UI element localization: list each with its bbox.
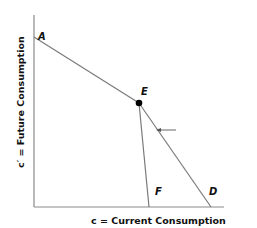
x-axis-title: c = Current Consumption [91, 215, 226, 226]
point-label-F: F [155, 186, 162, 197]
point-label-D: D [209, 186, 217, 197]
budget-line-ED [139, 103, 211, 207]
budget-line-AE [34, 37, 139, 103]
point-E-marker [136, 100, 143, 107]
point-label-E: E [141, 86, 148, 97]
line-EF [139, 103, 149, 207]
y-axis-title: c′ = Future Consumption [15, 36, 26, 168]
diagram-canvas: A E F D c = Current Consumption c′ = Fut… [0, 0, 257, 228]
point-label-A: A [37, 31, 46, 42]
